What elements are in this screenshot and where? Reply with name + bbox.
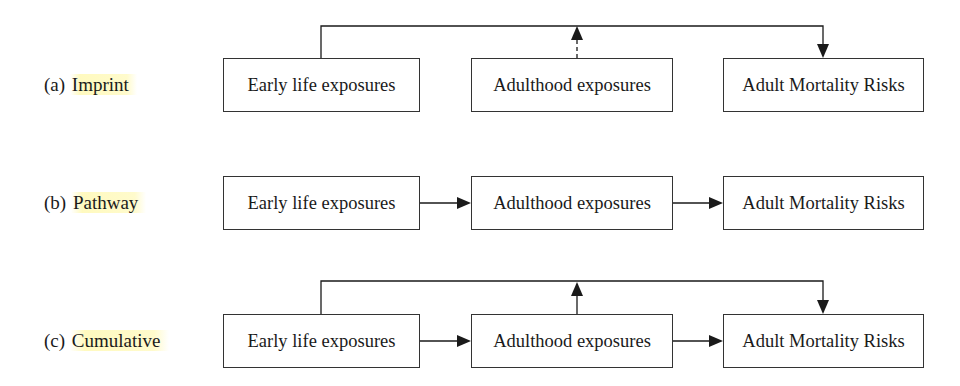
- row-label-imprint: (a) Imprint: [44, 74, 137, 96]
- arrowhead-right-icon: [457, 335, 471, 347]
- pathway-adulthood-box: Adulthood exposures: [471, 176, 673, 230]
- cumulative-early-life-box: Early life exposures: [223, 314, 420, 368]
- pathway-mortality-box: Adult Mortality Risks: [723, 176, 924, 230]
- arrowhead-down-icon: [817, 44, 829, 58]
- box-label: Early life exposures: [248, 331, 396, 352]
- cumulative-mortality-box: Adult Mortality Risks: [723, 314, 924, 368]
- imprint-top-connector: [321, 26, 823, 58]
- cumulative-top-connector: [321, 281, 823, 314]
- imprint-mortality-box: Adult Mortality Risks: [723, 58, 924, 112]
- row-label-prefix: (b): [44, 192, 71, 213]
- box-label: Early life exposures: [248, 193, 396, 214]
- row-label-prefix: (a): [44, 74, 70, 95]
- cumulative-adulthood-box: Adulthood exposures: [471, 314, 673, 368]
- arrowhead-up-icon: [571, 26, 583, 40]
- box-label: Adulthood exposures: [493, 75, 651, 96]
- row-label-prefix: (c): [44, 330, 70, 351]
- row-label-name: Pathway: [71, 192, 146, 213]
- row-label-name: Cumulative: [70, 330, 169, 351]
- arrowhead-right-icon: [709, 335, 723, 347]
- pathway-early-life-box: Early life exposures: [223, 176, 420, 230]
- arrowhead-down-icon: [817, 300, 829, 314]
- arrowhead-up-icon: [571, 282, 583, 296]
- imprint-early-life-box: Early life exposures: [223, 58, 420, 112]
- box-label: Adult Mortality Risks: [742, 331, 904, 352]
- box-label: Adult Mortality Risks: [742, 193, 904, 214]
- box-label: Early life exposures: [248, 75, 396, 96]
- row-label-pathway: (b) Pathway: [44, 192, 146, 214]
- imprint-adulthood-box: Adulthood exposures: [471, 58, 673, 112]
- arrowhead-right-icon: [709, 197, 723, 209]
- box-label: Adult Mortality Risks: [742, 75, 904, 96]
- row-label-cumulative: (c) Cumulative: [44, 330, 169, 352]
- box-label: Adulthood exposures: [493, 331, 651, 352]
- arrowhead-right-icon: [457, 197, 471, 209]
- box-label: Adulthood exposures: [493, 193, 651, 214]
- row-label-name: Imprint: [70, 74, 137, 95]
